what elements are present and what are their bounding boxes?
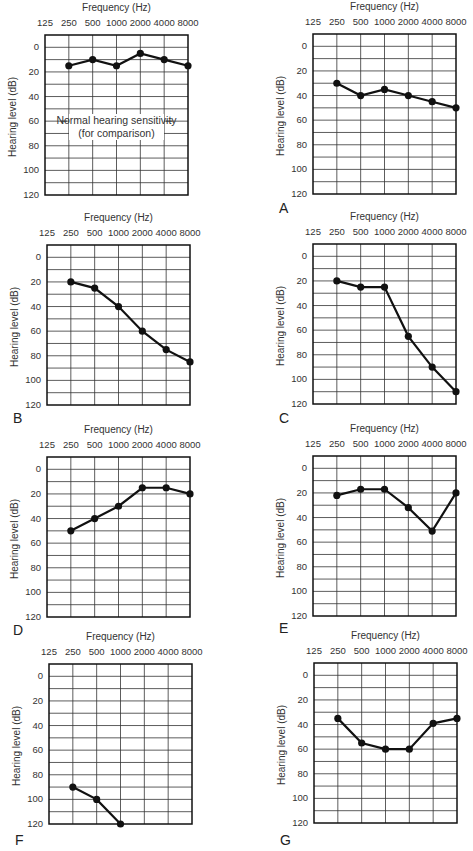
- threshold-point: [117, 820, 124, 827]
- x-tick-label: 2000: [398, 438, 419, 449]
- normal-hearing-note: Normal hearing sensitivity(for compariso…: [56, 114, 176, 140]
- x-tick-label: 125: [41, 646, 57, 657]
- x-tick-label: 500: [353, 226, 369, 237]
- threshold-point: [333, 80, 340, 87]
- threshold-point: [357, 486, 364, 493]
- threshold-point: [67, 527, 74, 534]
- x-tick-label: 125: [39, 227, 55, 238]
- x-axis-title: Frequency (Hz): [86, 631, 155, 642]
- threshold-point: [405, 504, 412, 511]
- x-tick-label: 250: [63, 439, 79, 450]
- y-tick-label: 100: [15, 164, 39, 175]
- y-tick-label: 40: [283, 90, 307, 101]
- panel-letter: F: [15, 832, 24, 848]
- threshold-point: [115, 303, 122, 310]
- x-tick-label: 2000: [399, 645, 420, 656]
- x-tick-label: 2000: [132, 439, 153, 450]
- y-tick-label: 120: [19, 818, 43, 829]
- y-tick-label: 60: [283, 114, 307, 125]
- y-tick-label: 40: [283, 512, 307, 523]
- x-tick-label: 1000: [106, 17, 127, 28]
- threshold-point: [453, 715, 460, 722]
- x-tick-label: 500: [87, 439, 103, 450]
- threshold-point: [382, 746, 389, 753]
- threshold-point: [65, 62, 72, 69]
- audiogram-plot: [313, 34, 458, 196]
- threshold-point: [91, 284, 98, 291]
- y-tick-label: 0: [284, 669, 308, 680]
- x-tick-label: 250: [61, 17, 77, 28]
- y-tick-label: 40: [15, 91, 39, 102]
- audiogram-plot: [313, 456, 458, 618]
- x-tick-label: 2000: [398, 16, 419, 27]
- audiogram-panel-d: Frequency (Hz)12525050010002000400080000…: [0, 422, 236, 634]
- y-axis-title: Hearing level (dB): [275, 286, 286, 366]
- threshold-point: [452, 104, 459, 111]
- threshold-point: [334, 715, 341, 722]
- threshold-point: [333, 277, 340, 284]
- y-tick-label: 80: [283, 139, 307, 150]
- threshold-point: [115, 503, 122, 510]
- y-tick-label: 0: [283, 40, 307, 51]
- y-tick-label: 120: [17, 399, 41, 410]
- threshold-point: [89, 56, 96, 63]
- y-tick-label: 60: [17, 537, 41, 548]
- y-tick-label: 0: [283, 462, 307, 473]
- y-tick-label: 60: [17, 325, 41, 336]
- threshold-point: [381, 486, 388, 493]
- y-tick-label: 120: [15, 189, 39, 200]
- y-tick-label: 80: [19, 769, 43, 780]
- y-axis-title: Hearing level (dB): [9, 499, 20, 579]
- x-axis-title: Frequency (Hz): [350, 1, 419, 12]
- x-tick-label: 2000: [398, 226, 419, 237]
- threshold-point: [67, 278, 74, 285]
- x-tick-label: 250: [65, 646, 81, 657]
- audiogram-panel-e: Frequency (Hz)12525050010002000400080000…: [236, 422, 472, 634]
- threshold-point: [184, 62, 191, 69]
- y-tick-label: 0: [17, 251, 41, 262]
- y-tick-label: 0: [283, 250, 307, 261]
- threshold-point: [333, 492, 340, 499]
- y-tick-label: 100: [19, 793, 43, 804]
- x-tick-label: 8000: [445, 226, 466, 237]
- y-axis-title: Hearing level (dB): [275, 498, 286, 578]
- threshold-point: [139, 328, 146, 335]
- x-tick-label: 250: [329, 438, 345, 449]
- threshold-point: [357, 283, 364, 290]
- y-tick-label: 20: [19, 695, 43, 706]
- threshold-point: [405, 92, 412, 99]
- audiogram-plot: [47, 245, 192, 407]
- threshold-point: [381, 86, 388, 93]
- x-axis-title: Frequency (Hz): [351, 630, 420, 641]
- y-tick-label: 0: [19, 670, 43, 681]
- y-axis-title: Hearing level (dB): [276, 705, 287, 785]
- threshold-line: [337, 281, 456, 392]
- y-tick-label: 80: [17, 350, 41, 361]
- x-tick-label: 8000: [179, 439, 200, 450]
- threshold-point: [113, 62, 120, 69]
- y-tick-label: 60: [283, 536, 307, 547]
- threshold-point: [429, 527, 436, 534]
- audiogram-panel-c: Frequency (Hz)12525050010002000400080000…: [236, 210, 472, 422]
- y-axis-title: Hearing level (dB): [7, 77, 18, 157]
- x-tick-label: 4000: [156, 227, 177, 238]
- y-tick-label: 100: [283, 163, 307, 174]
- threshold-point: [163, 346, 170, 353]
- threshold-point: [405, 333, 412, 340]
- x-tick-label: 4000: [156, 439, 177, 450]
- y-tick-label: 0: [17, 463, 41, 474]
- y-tick-label: 20: [283, 65, 307, 76]
- y-tick-label: 60: [15, 115, 39, 126]
- x-tick-label: 500: [87, 227, 103, 238]
- x-tick-label: 125: [37, 17, 53, 28]
- threshold-point: [357, 92, 364, 99]
- x-axis-title: Frequency (Hz): [84, 424, 153, 435]
- threshold-point: [406, 746, 413, 753]
- y-tick-label: 20: [284, 694, 308, 705]
- threshold-point: [358, 739, 365, 746]
- y-tick-label: 80: [284, 768, 308, 779]
- y-tick-label: 120: [17, 611, 41, 622]
- y-tick-label: 40: [17, 301, 41, 312]
- x-tick-label: 4000: [422, 226, 443, 237]
- x-tick-label: 1000: [108, 439, 129, 450]
